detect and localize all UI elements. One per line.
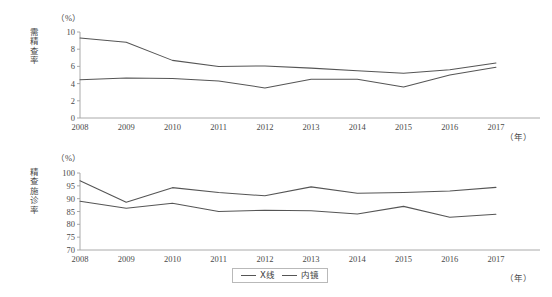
chart-legend: X线 内镜 [232,268,328,283]
data-line-xray [80,38,496,73]
data-line-xray [80,181,496,203]
legend-label-endoscopy: 内镜 [301,271,319,280]
data-line-endoscopy [80,67,496,88]
legend-label-xray: X线 [260,271,275,280]
plot-area-top [0,0,552,148]
data-line-endoscopy [80,201,496,217]
legend-line-swatch-endoscopy [282,275,297,276]
legend-item-endoscopy: 内镜 [282,271,319,280]
chart-panel-bottom: 精查施诊率 （%） 707580859095100 20082009201020… [0,140,552,297]
legend-line-swatch-xray [241,275,256,276]
dual-line-chart-figure: 需精查率 （%） 0246810 20082009201020112012201… [0,0,552,297]
chart-panel-top: 需精查率 （%） 0246810 20082009201020112012201… [0,0,552,148]
legend-item-xray: X线 [241,271,275,280]
